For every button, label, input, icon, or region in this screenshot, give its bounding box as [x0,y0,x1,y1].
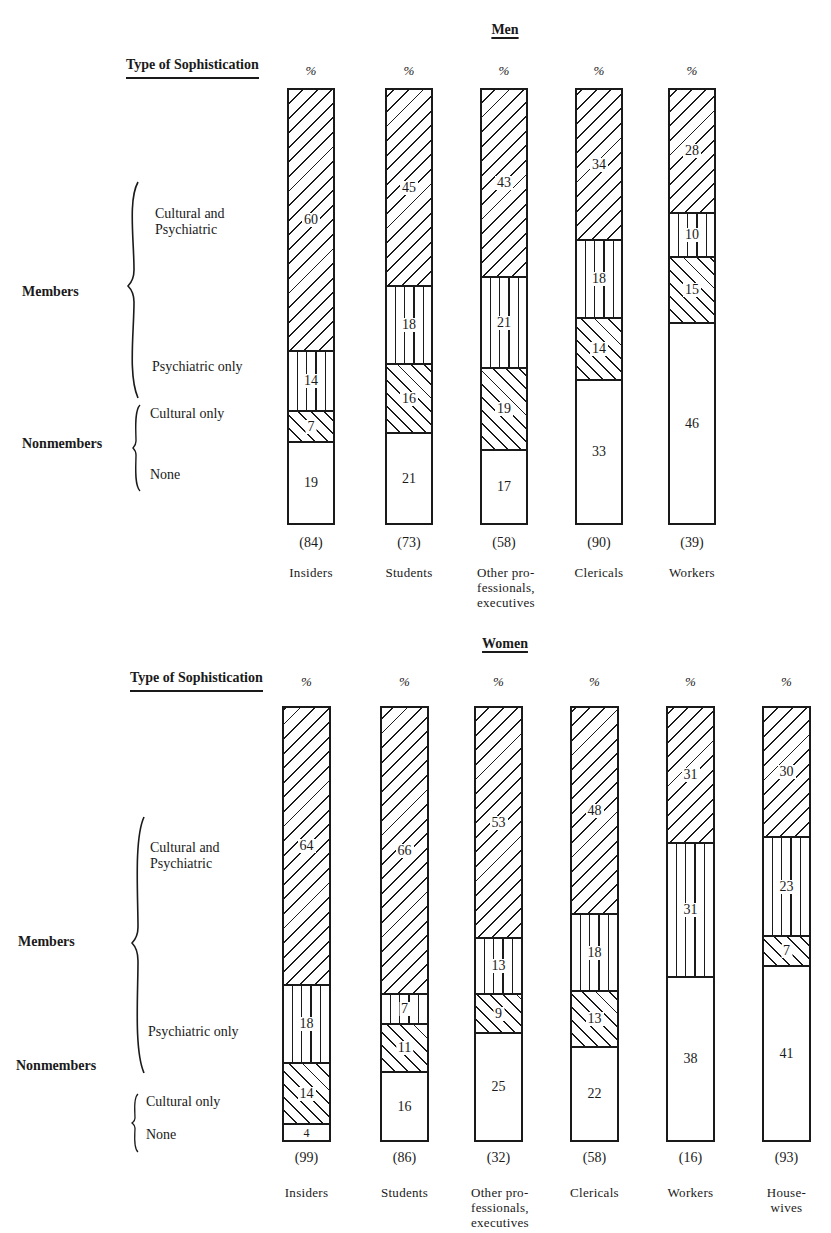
bar-segment-cultural-psychiatric: 28 [670,90,714,212]
percent-symbol: % [589,674,600,690]
bar-segment-psychiatric-only: 23 [764,836,809,935]
segment-value: 30 [778,765,796,779]
sample-size: (58) [583,1150,606,1166]
segment-value: 66 [396,844,414,858]
women-group-members: Members [18,934,75,950]
segment-value: 53 [490,816,508,830]
segment-value: 18 [400,318,418,332]
sample-size: (32) [487,1150,510,1166]
segment-value: 17 [495,480,513,494]
segment-value: 34 [590,158,608,172]
sample-size: (86) [393,1150,416,1166]
segment-value: 13 [490,959,508,973]
bar-segment-psychiatric-only: 14 [289,350,333,410]
segment-value: 33 [590,445,608,459]
segment-value: 45 [400,181,418,195]
men-chart-title: Men [491,22,518,38]
bar-segment-psychiatric-only: 18 [387,285,431,363]
bar-segment-cultural-only: 16 [387,363,431,432]
bar-segment-cultural-only: 19 [482,367,526,449]
women-cat-cultural-psychiatric: Cultural and Psychiatric [150,840,220,872]
type-of-sophistication-label: Type of Sophistication [126,57,259,79]
men-cat-cultural-only: Cultural only [150,406,224,422]
stacked-bar: 6014719 [287,88,335,525]
bar-segment-none: 46 [670,322,714,523]
men-cat-psychiatric-only: Psychiatric only [152,359,243,375]
segment-value: 15 [683,283,701,297]
sample-size: (99) [295,1150,318,1166]
percent-symbol: % [493,674,504,690]
percent-symbol: % [781,674,792,690]
percent-symbol: % [687,63,698,79]
bar-segment-cultural-only: 11 [382,1023,427,1071]
stacked-bar: 43211917 [480,88,528,525]
men-members-brace-icon [126,180,146,400]
bar-segment-psychiatric-only: 7 [382,993,427,1023]
women-cat-none: None [146,1127,176,1143]
bar-segment-psychiatric-only: 18 [577,239,621,317]
stacked-bar: 6671116 [380,706,429,1142]
occupation-label: Insiders [285,1185,329,1200]
occupation-label: Clericals [570,1185,619,1200]
bar-segment-psychiatric-only: 31 [668,842,713,976]
women-cat-cultural-only: Cultural only [146,1094,220,1110]
women-nonmembers-brace-icon [131,1092,143,1154]
bar-segment-none: 17 [482,449,526,523]
segment-value: 43 [495,176,513,190]
segment-value: 21 [400,472,418,486]
bar-segment-none: 22 [572,1046,617,1140]
bar-segment-cultural-psychiatric: 30 [764,708,809,836]
bar-segment-cultural-only: 9 [476,993,521,1032]
bar-segment-cultural-only: 7 [764,935,809,965]
bar-segment-cultural-psychiatric: 60 [289,90,333,350]
women-members-brace-icon [130,815,150,1075]
sample-size: (90) [587,535,610,551]
segment-value: 41 [778,1047,796,1061]
women-chart-title: Women [482,636,528,652]
bar-segment-cultural-psychiatric: 34 [577,90,621,239]
occupation-label: Other pro- fessionals, executives [477,565,535,610]
stacked-bar: 3023741 [762,706,811,1142]
percent-symbol: % [685,674,696,690]
bar-segment-psychiatric-only: 21 [482,276,526,367]
segment-value: 14 [302,374,320,388]
bar-segment-cultural-psychiatric: 43 [482,90,526,276]
percent-symbol: % [499,63,510,79]
segment-value: 31 [682,903,700,917]
stacked-bar: 28101546 [668,88,716,525]
segment-value: 9 [493,1007,504,1021]
segment-value: 64 [298,839,316,853]
segment-value: 7 [781,944,792,958]
bar-segment-psychiatric-only: 18 [284,984,329,1062]
men-group-nonmembers: Nonmembers [22,436,102,452]
segment-value: 19 [495,402,513,416]
occupation-label: Insiders [289,565,333,580]
segment-value: 21 [495,316,513,330]
segment-value: 4 [302,1127,312,1139]
bar-segment-cultural-only: 14 [577,317,621,379]
occupation-label: Workers [669,565,715,580]
segment-value: 14 [590,342,608,356]
segment-value: 11 [396,1041,413,1055]
segment-value: 18 [298,1017,316,1031]
percent-symbol: % [594,63,605,79]
bar-segment-cultural-only: 14 [284,1062,329,1123]
bar-segment-none: 41 [764,965,809,1140]
percent-symbol: % [306,63,317,79]
occupation-label: Clericals [575,565,624,580]
sample-size: (93) [775,1150,798,1166]
bar-segment-cultural-psychiatric: 48 [572,708,617,913]
percent-symbol: % [301,674,312,690]
sample-size: (84) [299,535,322,551]
occupation-label: Workers [668,1185,714,1200]
segment-value: 7 [399,1002,410,1016]
percent-symbol: % [404,63,415,79]
women-group-nonmembers: Nonmembers [16,1058,96,1074]
women-cat-psychiatric-only: Psychiatric only [148,1024,239,1040]
sample-size: (16) [679,1150,702,1166]
stacked-bar: 6418144 [282,706,331,1142]
occupation-label: Other pro- fessionals, executives [471,1185,529,1230]
segment-value: 60 [302,213,320,227]
bar-segment-none: 25 [476,1032,521,1140]
segment-value: 19 [302,476,320,490]
